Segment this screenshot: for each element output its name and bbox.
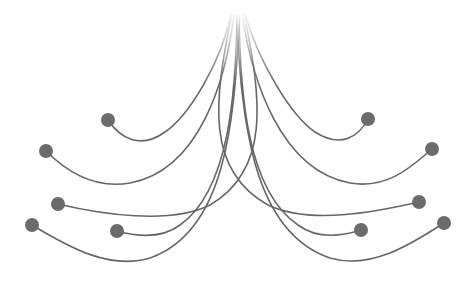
- branch-nodes: [25, 112, 451, 238]
- branch-curve-left-3: [32, 14, 240, 261]
- node-dot-right-6: [425, 142, 439, 156]
- branch-curves: [32, 14, 444, 261]
- branch-curve-left-0: [108, 14, 231, 141]
- branch-curve-right-7: [219, 14, 419, 215]
- fan-diagram: [0, 0, 476, 282]
- node-dot-left-3: [25, 218, 39, 232]
- branch-curve-right-6: [242, 14, 432, 184]
- node-dot-left-4: [110, 224, 124, 238]
- branch-curve-left-1: [46, 14, 234, 184]
- branch-curve-right-5: [245, 14, 368, 140]
- node-dot-right-7: [412, 195, 426, 209]
- branch-diagram-svg: [0, 0, 476, 282]
- node-dot-right-8: [437, 216, 451, 230]
- node-dot-left-1: [39, 144, 53, 158]
- branch-curve-left-2: [58, 14, 257, 216]
- node-dot-left-2: [51, 197, 65, 211]
- node-dot-right-5: [361, 112, 375, 126]
- node-dot-left-0: [101, 113, 115, 127]
- branch-curve-right-8: [236, 14, 444, 261]
- node-dot-right-9: [354, 223, 368, 237]
